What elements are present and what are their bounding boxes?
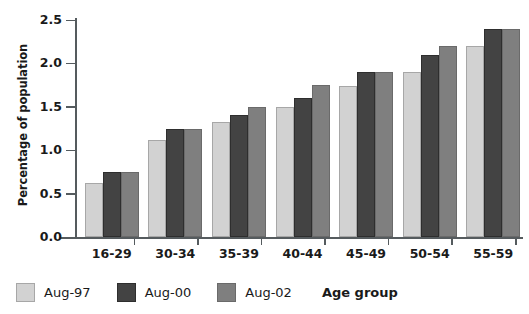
- bar: [212, 122, 230, 237]
- y-tick-mark: [66, 20, 76, 22]
- bar: [248, 107, 266, 237]
- bar-chart: Percentage of population 0.00.51.01.52.0…: [0, 0, 529, 314]
- bar: [439, 46, 457, 237]
- legend-item[interactable]: Aug-00: [117, 283, 192, 302]
- bar-group: [466, 20, 520, 237]
- bar-group: [212, 20, 266, 237]
- y-tick-label: 1.0: [24, 142, 62, 157]
- legend-swatch-icon: [117, 283, 136, 302]
- bar-group: [85, 20, 139, 237]
- bar: [166, 129, 184, 238]
- bar-group: [148, 20, 202, 237]
- bar-group: [339, 20, 393, 237]
- legend-item[interactable]: Aug-97: [16, 283, 91, 302]
- bar: [403, 72, 421, 237]
- y-tick-mark: [66, 237, 76, 239]
- y-tick-label: 1.5: [24, 99, 62, 114]
- bar: [339, 86, 357, 237]
- y-tick-mark: [66, 106, 76, 108]
- x-tick-mark: [261, 239, 263, 245]
- y-axis-title: Percentage of population: [16, 10, 30, 240]
- y-tick-label: 2.0: [24, 55, 62, 70]
- bar-group: [403, 20, 457, 237]
- legend-swatch-icon: [217, 283, 236, 302]
- x-tick-mark: [451, 239, 453, 245]
- bar-group: [276, 20, 330, 237]
- x-tick-mark: [388, 239, 390, 245]
- bar: [421, 55, 439, 237]
- x-tick-mark: [134, 239, 136, 245]
- y-tick-mark: [66, 193, 76, 195]
- bar: [466, 46, 484, 237]
- bar: [121, 172, 139, 237]
- bar: [184, 129, 202, 238]
- bar: [312, 85, 330, 237]
- y-tick-label: 2.5: [24, 12, 62, 27]
- plot-area: [76, 20, 521, 237]
- bar: [375, 72, 393, 237]
- bar: [484, 29, 502, 237]
- x-tick-mark: [515, 239, 517, 245]
- legend-item[interactable]: Aug-02: [217, 283, 292, 302]
- y-tick-label: 0.0: [24, 229, 62, 244]
- x-axis-line: [60, 237, 523, 239]
- bar: [148, 140, 166, 237]
- y-tick-mark: [66, 63, 76, 65]
- bar: [502, 29, 520, 237]
- x-tick-mark: [324, 239, 326, 245]
- bar: [103, 172, 121, 237]
- bar: [294, 98, 312, 237]
- x-axis-title: Age group: [322, 285, 398, 300]
- x-tick-label: 55-59: [456, 246, 529, 261]
- y-tick-mark: [66, 150, 76, 152]
- y-tick-label: 0.5: [24, 186, 62, 201]
- legend-label: Aug-02: [245, 285, 292, 300]
- legend-label: Aug-97: [44, 285, 91, 300]
- x-tick-mark: [197, 239, 199, 245]
- legend-swatch-icon: [16, 283, 35, 302]
- bar: [85, 183, 103, 237]
- chart-legend: Aug-97Aug-00Aug-02Age group: [16, 283, 398, 302]
- bar: [230, 115, 248, 237]
- legend-label: Aug-00: [145, 285, 192, 300]
- bar: [357, 72, 375, 237]
- bar: [276, 107, 294, 237]
